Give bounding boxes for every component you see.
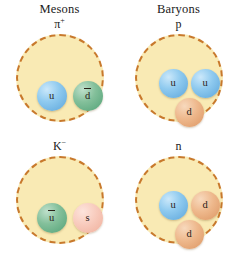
quark-label: u bbox=[170, 200, 175, 211]
particle-symbol-base: p bbox=[176, 17, 182, 31]
quark-label: u bbox=[49, 213, 54, 224]
quark-up: u bbox=[159, 69, 188, 98]
column-header-mesons: Mesons bbox=[0, 2, 119, 17]
quark-label: d bbox=[85, 91, 90, 102]
particle-symbol-base: K bbox=[53, 139, 62, 153]
quark-up: u bbox=[159, 191, 188, 220]
quark-label: d bbox=[186, 229, 191, 240]
hadron-proton: p u u d bbox=[119, 18, 238, 135]
hadron-pi-plus: π+ u d bbox=[0, 18, 119, 135]
confinement-circle-pi-plus: u d bbox=[16, 34, 104, 122]
quark-composition-figure: Mesons Baryons π+ u d p u u d bbox=[0, 0, 238, 274]
particle-label-pi-plus: π+ bbox=[0, 18, 119, 34]
quark-down: d bbox=[191, 191, 220, 220]
hadron-neutron: n u d d bbox=[119, 140, 238, 257]
quark-antiup: u bbox=[37, 203, 67, 233]
quark-label: d bbox=[202, 200, 207, 211]
confinement-circle-neutron: u d d bbox=[135, 156, 223, 244]
particle-label-proton: p bbox=[119, 18, 238, 34]
quark-strange: s bbox=[73, 203, 103, 233]
particle-symbol-charge: + bbox=[60, 16, 65, 25]
quark-label: d bbox=[186, 107, 191, 118]
column-header-baryons: Baryons bbox=[119, 2, 238, 17]
quark-label: u bbox=[49, 91, 54, 102]
quark-antidown: d bbox=[73, 81, 103, 111]
quark-down: d bbox=[175, 98, 204, 127]
quark-label: u bbox=[202, 78, 207, 89]
particle-label-k-minus: K− bbox=[0, 140, 119, 156]
confinement-circle-proton: u u d bbox=[135, 34, 223, 122]
confinement-circle-k-minus: u s bbox=[16, 156, 104, 244]
quark-label: s bbox=[85, 213, 89, 224]
hadron-k-minus: K− u s bbox=[0, 140, 119, 257]
quark-up: u bbox=[37, 81, 67, 111]
quark-label: u bbox=[170, 78, 175, 89]
quark-up: u bbox=[191, 69, 220, 98]
quark-down: d bbox=[175, 220, 204, 249]
particle-symbol-base: n bbox=[176, 139, 182, 153]
particle-label-neutron: n bbox=[119, 140, 238, 156]
particle-symbol-charge: − bbox=[62, 138, 67, 147]
